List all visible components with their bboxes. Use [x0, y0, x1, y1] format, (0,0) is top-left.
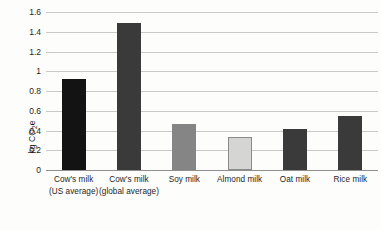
- category-label-line1: Cow's milk: [109, 175, 148, 184]
- category-label-line1: Cow's milk: [54, 175, 93, 184]
- y-axis-tick-label: 0.8: [29, 87, 41, 96]
- y-axis-tick-label: 0.2: [29, 146, 41, 155]
- y-axis-tick-label: 1: [36, 67, 41, 76]
- bar: [228, 137, 252, 170]
- bar: [62, 79, 86, 170]
- y-axis-tick-label: 0.6: [29, 107, 41, 116]
- bar: [338, 116, 362, 170]
- category-label-line1: Oat milk: [280, 175, 310, 184]
- x-axis-category-label: Rice milk: [316, 174, 381, 186]
- y-axis-tick-label: 0.4: [29, 126, 41, 135]
- bar: [117, 23, 141, 170]
- y-axis-tick-label: 1.6: [29, 8, 41, 17]
- category-label-line2: (global average): [94, 186, 163, 198]
- x-axis-baseline: 0: [46, 170, 378, 171]
- category-label-line1: Soy milk: [169, 175, 200, 184]
- category-label-line1: Rice milk: [333, 175, 367, 184]
- x-axis-category-labels: Cow's milk(US average)Cow's milk(global …: [46, 174, 378, 224]
- y-axis-tick-label: 1.4: [29, 28, 41, 37]
- category-label-line1: Almond milk: [217, 175, 262, 184]
- bar: [283, 129, 307, 170]
- y-axis-tick-label: 1.2: [29, 47, 41, 56]
- bars-layer: [46, 12, 378, 170]
- bar: [172, 124, 196, 170]
- y-axis-tick-label: 0: [36, 166, 41, 175]
- bar-chart: kg CO2e 00.20.40.60.811.21.41.6 Cow's mi…: [0, 0, 381, 230]
